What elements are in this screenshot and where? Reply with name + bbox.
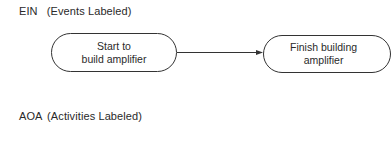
aoa-prefix: AOA bbox=[19, 110, 42, 122]
aoa-section-title: AOA (Activities Labeled) bbox=[19, 110, 142, 122]
node-finish-building-amplifier: Finish building amplifier bbox=[263, 35, 391, 73]
node-finish-line-2: amplifier bbox=[290, 54, 357, 67]
aoa-subtitle: (Activities Labeled) bbox=[47, 110, 142, 122]
node-finish-line-1: Finish building bbox=[290, 41, 357, 54]
